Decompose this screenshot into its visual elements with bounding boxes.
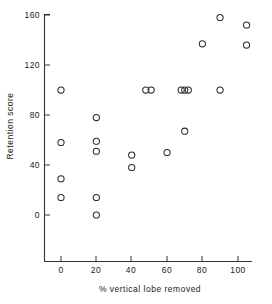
data-point bbox=[217, 14, 223, 20]
axes-group bbox=[45, 14, 253, 262]
data-points-layer bbox=[58, 14, 250, 218]
y-tick-label-0: 0 bbox=[35, 210, 40, 220]
data-point bbox=[164, 149, 170, 155]
chart-canvas: 160 120 80 40 0 0 20 40 60 80 100 % vert… bbox=[0, 0, 272, 304]
data-point bbox=[93, 212, 99, 218]
data-point bbox=[199, 41, 205, 47]
data-point bbox=[58, 139, 64, 145]
y-tick-label-120: 120 bbox=[25, 60, 40, 70]
data-point bbox=[93, 138, 99, 144]
x-tick-label-20: 20 bbox=[91, 265, 101, 275]
x-tick-label-80: 80 bbox=[197, 265, 207, 275]
data-point bbox=[93, 194, 99, 200]
scatter-plot-figure: 160 120 80 40 0 0 20 40 60 80 100 % vert… bbox=[0, 0, 272, 304]
x-tick-label-40: 40 bbox=[126, 265, 136, 275]
data-point bbox=[58, 87, 64, 93]
data-point bbox=[129, 152, 135, 158]
data-point bbox=[58, 194, 64, 200]
data-point bbox=[58, 176, 64, 182]
data-point bbox=[243, 42, 249, 48]
x-tick-label-60: 60 bbox=[162, 265, 172, 275]
x-tick-label-0: 0 bbox=[58, 265, 63, 275]
data-point bbox=[243, 22, 249, 28]
x-ticks-group: 0 20 40 60 80 100 bbox=[58, 256, 245, 275]
x-tick-label-100: 100 bbox=[230, 265, 245, 275]
data-point bbox=[182, 128, 188, 134]
y-tick-label-40: 40 bbox=[30, 160, 40, 170]
y-tick-label-160: 160 bbox=[25, 10, 40, 20]
data-point bbox=[217, 87, 223, 93]
y-tick-label-80: 80 bbox=[30, 110, 40, 120]
x-axis-title: % vertical lobe removed bbox=[99, 284, 201, 294]
data-point bbox=[93, 114, 99, 120]
y-axis-title: Retention score bbox=[5, 92, 15, 159]
data-point bbox=[129, 164, 135, 170]
data-point bbox=[93, 148, 99, 154]
y-ticks-group: 160 120 80 40 0 bbox=[25, 10, 50, 220]
